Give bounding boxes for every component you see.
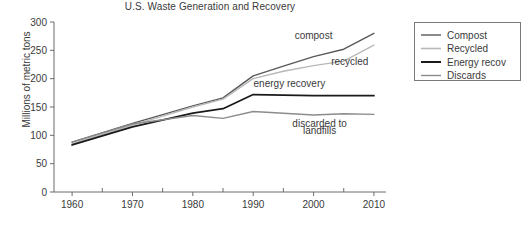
chart-plot-area: 050100150200250300 196019701980199020002… xyxy=(0,0,527,232)
legend-label: Discards xyxy=(447,70,486,81)
y-tick-label: 300 xyxy=(30,17,47,28)
annotation-label: energy recovery xyxy=(254,78,326,89)
legend-label: Compost xyxy=(447,30,487,41)
x-tick-label: 2000 xyxy=(302,199,325,210)
y-tick-label: 200 xyxy=(30,73,47,84)
annotation-label: landfills xyxy=(303,125,336,136)
x-tick-label: 1990 xyxy=(242,199,265,210)
x-tick-label: 1970 xyxy=(121,199,144,210)
x-axis: 196019701980199020002010 xyxy=(54,188,386,210)
x-tick-label: 1960 xyxy=(61,199,84,210)
x-tick-label: 2010 xyxy=(363,199,386,210)
legend-box: CompostRecycledEnergy recovDiscards xyxy=(415,23,521,82)
y-tick-label: 0 xyxy=(41,187,47,198)
y-tick-label: 150 xyxy=(30,102,47,113)
y-tick-label: 250 xyxy=(30,45,47,56)
x-tick-label: 1980 xyxy=(182,199,205,210)
legend-label: Energy recov xyxy=(447,57,506,68)
x-axis-ticks: 196019701980199020002010 xyxy=(61,188,386,210)
annotation-label: compost xyxy=(295,30,333,41)
legend-label: Recycled xyxy=(447,43,488,54)
y-tick-label: 50 xyxy=(36,158,48,169)
y-axis: 050100150200250300 xyxy=(30,17,54,198)
annotation-label: recycled xyxy=(331,56,368,67)
y-axis-ticks: 050100150200250300 xyxy=(30,17,54,198)
chart-figure: U.S. Waste Generation and Recovery Milli… xyxy=(0,0,527,232)
y-tick-label: 100 xyxy=(30,130,47,141)
